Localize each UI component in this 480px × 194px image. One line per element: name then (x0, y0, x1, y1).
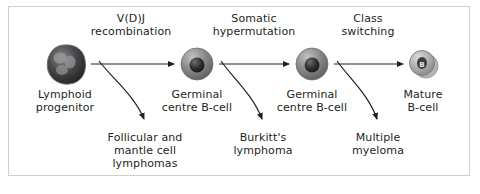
cell-germinal-centre-b-cell-2 (296, 48, 328, 80)
disease-label-burkitts-lymphoma: Burkitt's lymphoma (215, 131, 311, 157)
cell-mature-b-cell: B (410, 51, 439, 79)
b-cell-development-diagram: B V(D)J recombination Somatic hypermutat… (0, 0, 480, 194)
process-label-somatic-hypermutation: Somatic hypermutation (197, 12, 311, 38)
cell-lymphoid-progenitor (47, 45, 85, 84)
cell-label-germinal-centre-b-cell-2: Germinal centre B-cell (258, 88, 366, 114)
cell-label-lymphoid-progenitor: Lymphoid progenitor (13, 88, 117, 114)
mature-b-cell-inner-label: B (419, 61, 424, 69)
cell-label-germinal-centre-b-cell-1: Germinal centre B-cell (143, 88, 251, 114)
process-label-vdj-recombination: V(D)J recombination (76, 12, 186, 38)
disease-label-multiple-myeloma: Multiple myeloma (330, 131, 426, 157)
cell-label-mature-b-cell: Mature B-cell (379, 88, 467, 114)
process-label-class-switching: Class switching (315, 12, 421, 38)
disease-label-follicular-mantle-cell-lymphomas: Follicular and mantle cell lymphomas (91, 131, 199, 170)
cell-germinal-centre-b-cell-1 (181, 48, 213, 80)
